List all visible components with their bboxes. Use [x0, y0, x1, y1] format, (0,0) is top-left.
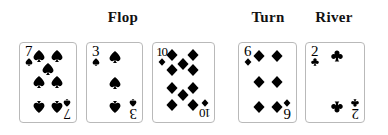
diamond-pip-icon	[252, 50, 265, 63]
spade-pip-icon	[109, 101, 122, 114]
poker-board: FlopTurnRiver773310106622	[0, 0, 388, 135]
card-pip-field	[99, 47, 130, 118]
spade-pip-icon	[109, 76, 122, 89]
card-six-of-diamonds[interactable]: 66	[238, 42, 297, 123]
card-pip-field	[32, 47, 64, 118]
spade-pip-icon	[50, 75, 63, 88]
spade-pip-icon	[109, 50, 122, 63]
diamond-pip-icon	[271, 50, 284, 63]
club-pip-icon	[331, 50, 343, 62]
street-label-flop: Flop	[78, 9, 168, 25]
card-pip-field	[318, 47, 352, 118]
diamond-pip-icon	[187, 63, 200, 76]
spade-pip-icon	[33, 101, 46, 114]
diamond-pip-icon	[252, 75, 265, 88]
diamond-pip-icon	[166, 63, 179, 76]
diamond-pip-icon	[271, 101, 284, 114]
diamond-pip-icon	[166, 99, 179, 112]
card-ten-of-diamonds[interactable]: 1010	[152, 42, 215, 123]
card-pip-field	[165, 47, 202, 118]
spade-pip-icon	[50, 50, 63, 63]
street-label-river: River	[300, 9, 368, 25]
card-two-of-clubs[interactable]: 22	[305, 42, 365, 123]
diamond-pip-icon	[187, 99, 200, 112]
spade-pip-icon	[33, 50, 46, 63]
spade-pip-icon	[33, 75, 46, 88]
street-label-turn: Turn	[238, 9, 298, 25]
spade-pip-icon	[50, 101, 63, 114]
club-pip-icon	[331, 101, 343, 113]
spade-pip-icon	[42, 63, 55, 76]
card-seven-of-spades[interactable]: 77	[19, 42, 77, 123]
card-three-of-spades[interactable]: 33	[86, 42, 143, 123]
card-pip-field	[251, 47, 284, 118]
diamond-pip-icon	[271, 75, 284, 88]
diamond-pip-icon	[252, 101, 265, 114]
